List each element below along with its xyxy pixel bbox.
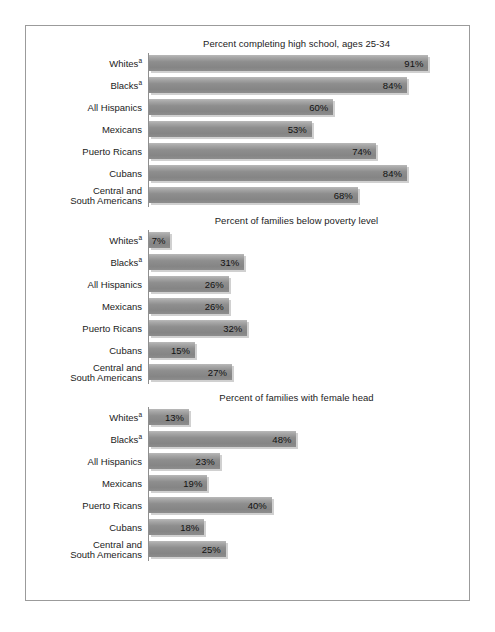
- bar-row: Puerto Ricans40%: [26, 495, 469, 517]
- bar-value-label: 60%: [309, 102, 333, 113]
- plot-area: Whitesa91%Blacksa84%All Hispanics60%Mexi…: [26, 53, 469, 207]
- category-label: Whitesa: [26, 236, 148, 247]
- bar-row: Puerto Ricans74%: [26, 141, 469, 163]
- category-label: Puerto Ricans: [26, 324, 148, 335]
- bar: 23%: [149, 453, 220, 469]
- bar-value-label: 68%: [334, 190, 358, 201]
- bar: 13%: [149, 409, 189, 425]
- bar-track: 27%: [148, 362, 469, 384]
- bar: 26%: [149, 276, 229, 292]
- bar-value-label: 26%: [205, 301, 229, 312]
- bar-row: Central andSouth Americans27%: [26, 362, 469, 384]
- category-label: Central andSouth Americans: [26, 540, 148, 561]
- bar: 84%: [149, 165, 407, 181]
- bar: 19%: [149, 475, 207, 491]
- category-label: All Hispanics: [26, 103, 148, 114]
- bar-row: Blacksa31%: [26, 252, 469, 274]
- bar-track: 84%: [148, 163, 469, 185]
- category-label: Mexicans: [26, 125, 148, 136]
- category-label: Central andSouth Americans: [26, 363, 148, 384]
- bar-value-label: 32%: [223, 323, 247, 334]
- category-label: Whitesa: [26, 59, 148, 70]
- bar-value-label: 23%: [196, 456, 220, 467]
- bar-value-label: 27%: [208, 367, 232, 378]
- bar-track: 68%: [148, 185, 469, 207]
- plot-area: Whitesa13%Blacksa48%All Hispanics23%Mexi…: [26, 407, 469, 561]
- bar-row: Cubans84%: [26, 163, 469, 185]
- bar: 15%: [149, 342, 195, 358]
- bar-value-label: 15%: [171, 345, 195, 356]
- bar: 27%: [149, 364, 232, 380]
- bar-track: 18%: [148, 517, 469, 539]
- panel-title: Percent completing high school, ages 25-…: [26, 38, 469, 49]
- bar-row: Puerto Ricans32%: [26, 318, 469, 340]
- bar-row: All Hispanics26%: [26, 274, 469, 296]
- category-label: Whitesa: [26, 413, 148, 424]
- bar-track: 40%: [148, 495, 469, 517]
- bar-track: 7%: [148, 230, 469, 252]
- bar-track: 48%: [148, 429, 469, 451]
- bar: 84%: [149, 77, 407, 93]
- bar: 91%: [149, 55, 428, 71]
- bar-track: 13%: [148, 407, 469, 429]
- category-label: Central andSouth Americans: [26, 186, 148, 207]
- bar-value-label: 74%: [352, 146, 376, 157]
- bar-value-label: 13%: [165, 412, 189, 423]
- bar-row: Cubans15%: [26, 340, 469, 362]
- footnote-marker: a: [138, 79, 142, 86]
- category-label: Puerto Ricans: [26, 147, 148, 158]
- bar-track: 19%: [148, 473, 469, 495]
- bar: 74%: [149, 143, 376, 159]
- bar-row: Whitesa91%: [26, 53, 469, 75]
- footnote-marker: a: [138, 234, 142, 241]
- bar-track: 74%: [148, 141, 469, 163]
- bar-track: 32%: [148, 318, 469, 340]
- bar: 48%: [149, 431, 296, 447]
- category-label: Cubans: [26, 346, 148, 357]
- bar-track: 91%: [148, 53, 469, 75]
- bar-row: Mexicans26%: [26, 296, 469, 318]
- bar-row: Central andSouth Americans25%: [26, 539, 469, 561]
- bar-row: Cubans18%: [26, 517, 469, 539]
- bar: 40%: [149, 497, 272, 513]
- bar-row: All Hispanics60%: [26, 97, 469, 119]
- bar-value-label: 18%: [180, 522, 204, 533]
- category-label: Mexicans: [26, 302, 148, 313]
- footnote-marker: a: [138, 433, 142, 440]
- bar-value-label: 31%: [220, 257, 244, 268]
- chart-panel: Percent of families with female headWhit…: [26, 384, 469, 561]
- bar-value-label: 84%: [383, 80, 407, 91]
- bar-track: 25%: [148, 539, 469, 561]
- bar: 53%: [149, 121, 312, 137]
- bar-track: 84%: [148, 75, 469, 97]
- bar: 18%: [149, 519, 204, 535]
- bar-value-label: 26%: [205, 279, 229, 290]
- bar-value-label: 48%: [272, 434, 296, 445]
- bar-row: Blacksa48%: [26, 429, 469, 451]
- bar: 7%: [149, 232, 170, 248]
- bar-track: 23%: [148, 451, 469, 473]
- bar-track: 31%: [148, 252, 469, 274]
- panel-title: Percent of families with female head: [26, 392, 469, 403]
- bar: 25%: [149, 541, 226, 557]
- category-label: Cubans: [26, 169, 148, 180]
- bar-row: Central andSouth Americans68%: [26, 185, 469, 207]
- plot-area: Whitesa7%Blacksa31%All Hispanics26%Mexic…: [26, 230, 469, 384]
- bar-track: 60%: [148, 97, 469, 119]
- bar-row: Whitesa13%: [26, 407, 469, 429]
- bar-row: Whitesa7%: [26, 230, 469, 252]
- chart-panel: Percent completing high school, ages 25-…: [26, 26, 469, 207]
- bar-track: 26%: [148, 296, 469, 318]
- bar: 32%: [149, 320, 247, 336]
- bar-value-label: 25%: [202, 544, 226, 555]
- bar-row: Blacksa84%: [26, 75, 469, 97]
- bar-value-label: 84%: [383, 168, 407, 179]
- bar-track: 53%: [148, 119, 469, 141]
- category-label: Mexicans: [26, 479, 148, 490]
- bar: 60%: [149, 99, 333, 115]
- panel-title: Percent of families below poverty level: [26, 215, 469, 226]
- footnote-marker: a: [138, 256, 142, 263]
- bar-row: All Hispanics23%: [26, 451, 469, 473]
- category-label: All Hispanics: [26, 457, 148, 468]
- chart-panel: Percent of families below poverty levelW…: [26, 207, 469, 384]
